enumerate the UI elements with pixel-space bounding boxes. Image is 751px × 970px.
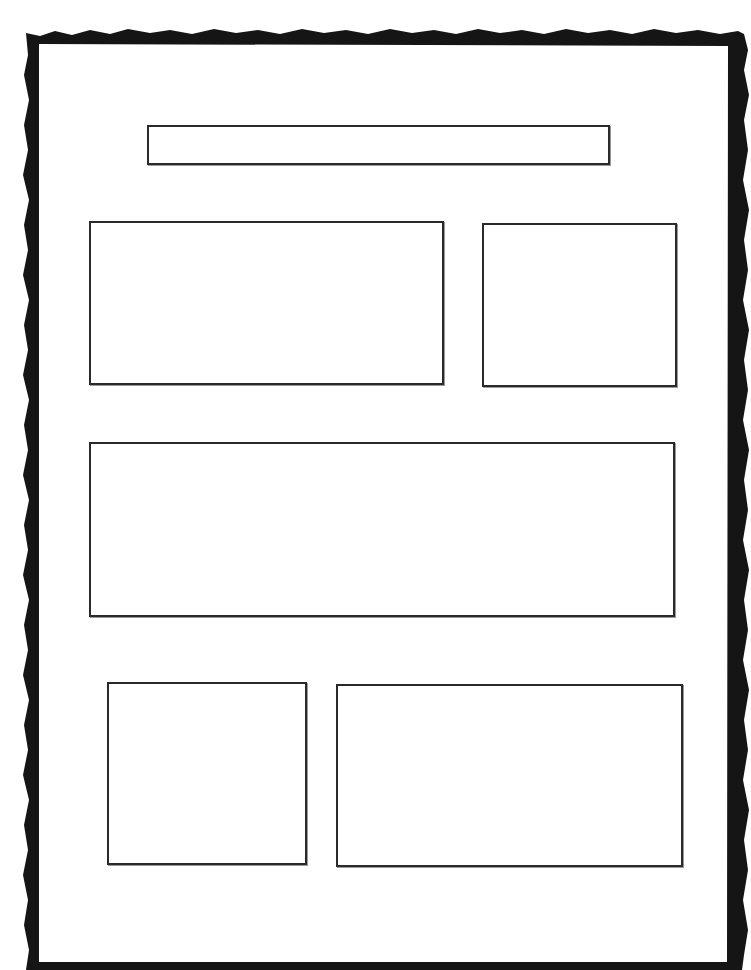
box-middle-wide: [89, 442, 675, 617]
title-box: [147, 125, 610, 165]
box-bottom-left: [107, 682, 307, 865]
box-bottom-right: [336, 684, 683, 867]
box-top-left: [89, 221, 444, 385]
box-top-right: [482, 223, 677, 387]
